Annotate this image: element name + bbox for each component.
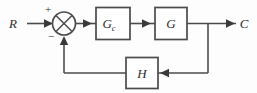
block-gc-label-subscript: c <box>112 23 116 33</box>
label-minus-sign: − <box>48 30 54 42</box>
arrowhead-h-input <box>160 69 169 77</box>
arrowhead-g-input <box>142 19 151 27</box>
label-input-r: R <box>8 16 17 31</box>
block-h-label: H <box>136 66 147 81</box>
block-diagram-canvas: R C + − Gc G H <box>0 0 257 93</box>
label-output-c: C <box>240 16 249 31</box>
arrowhead-sum-feedback-input <box>60 36 68 45</box>
label-plus-sign: + <box>45 3 51 15</box>
block-diagram-container: R C + − Gc G H <box>0 0 257 93</box>
arrowhead-gc-input <box>83 19 92 27</box>
arrowhead-c-output <box>226 19 235 27</box>
block-g-label: G <box>166 16 176 31</box>
